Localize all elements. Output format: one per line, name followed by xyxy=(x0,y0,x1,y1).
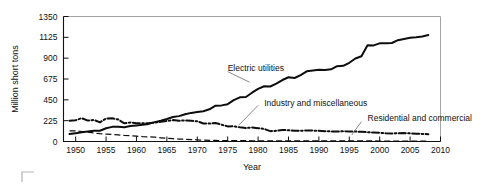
annotation-label: Residential and commercial xyxy=(368,113,473,123)
y-tick-label: 900 xyxy=(43,53,57,63)
x-tick-label: 2005 xyxy=(401,145,420,155)
x-tick-label: 1950 xyxy=(66,145,85,155)
x-tick-label: 1980 xyxy=(249,145,268,155)
x-tick-label: 1990 xyxy=(309,145,328,155)
coal-consumption-line-chart: 0225450675900112513501950195519601965197… xyxy=(0,0,489,186)
x-axis-title: Year xyxy=(243,162,261,172)
x-tick-label: 1970 xyxy=(188,145,207,155)
x-tick-label: 1960 xyxy=(127,145,146,155)
y-tick-label: 1350 xyxy=(39,12,58,22)
annotation-label: Electric utilities xyxy=(228,63,284,73)
x-tick-label: 2010 xyxy=(431,145,450,155)
annotation-label: Industry and miscellaneous xyxy=(264,98,367,108)
x-tick-label: 1975 xyxy=(218,145,237,155)
x-tick-label: 1985 xyxy=(279,145,298,155)
figure-background xyxy=(1,1,489,186)
y-tick-label: 1125 xyxy=(39,32,58,42)
x-tick-label: 2000 xyxy=(370,145,389,155)
x-tick-label: 1955 xyxy=(97,145,116,155)
y-tick-label: 0 xyxy=(53,137,58,147)
y-axis-title: Million short tons xyxy=(10,45,20,113)
chart-figure: 0225450675900112513501950195519601965197… xyxy=(0,0,489,186)
x-tick-label: 1965 xyxy=(157,145,176,155)
y-tick-label: 450 xyxy=(43,95,57,105)
x-tick-label: 1995 xyxy=(340,145,359,155)
y-tick-label: 675 xyxy=(43,74,57,84)
y-tick-label: 225 xyxy=(43,116,57,126)
